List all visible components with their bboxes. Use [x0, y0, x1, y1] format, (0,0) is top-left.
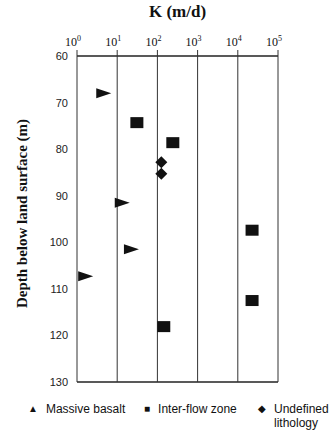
svg-text:120: 120: [50, 329, 68, 341]
scatter-plot: 10010110210310410560708090100110120130: [0, 0, 333, 400]
legend-item-undefined-lithology: ◆ Undefinedlithology: [258, 402, 329, 430]
svg-text:70: 70: [56, 97, 68, 109]
svg-text:110: 110: [50, 283, 68, 295]
svg-text:60: 60: [56, 50, 68, 62]
triangle-icon: ▲: [28, 402, 38, 416]
svg-text:100: 100: [50, 236, 68, 248]
svg-text:105: 105: [266, 34, 282, 49]
svg-text:103: 103: [186, 34, 202, 49]
svg-text:102: 102: [145, 34, 161, 49]
svg-text:130: 130: [50, 376, 68, 388]
legend-item-massive-basalt: ▲ Massive basalt: [28, 402, 125, 416]
square-icon: ■: [144, 402, 150, 416]
svg-text:104: 104: [226, 34, 242, 49]
legend-item-inter-flow-zone: ■ Inter-flow zone: [144, 402, 237, 416]
svg-text:100: 100: [65, 34, 81, 49]
svg-text:101: 101: [105, 34, 121, 49]
diamond-icon: ◆: [258, 402, 266, 416]
svg-text:80: 80: [56, 143, 68, 155]
svg-text:90: 90: [56, 190, 68, 202]
